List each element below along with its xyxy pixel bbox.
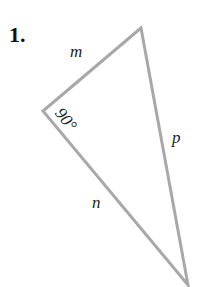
problem-number: 1. — [9, 22, 26, 48]
triangle-diagram — [0, 0, 223, 287]
side-label-n: n — [92, 193, 101, 213]
side-label-p: p — [172, 128, 181, 148]
right-triangle — [43, 28, 188, 285]
side-label-m: m — [70, 42, 82, 62]
